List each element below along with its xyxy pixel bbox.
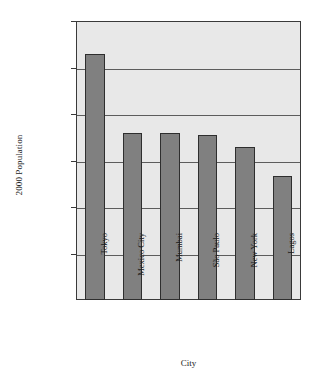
x-tick-label: Mexico City — [136, 233, 147, 303]
x-tick-label: Tokyo — [99, 233, 110, 303]
x-tick-label: Mumbai — [174, 233, 185, 303]
x-tick-label: São Paulo — [211, 233, 222, 303]
x-tick-label: New York — [249, 233, 260, 303]
x-axis-title: City — [76, 358, 301, 368]
bar-chart-figure: 2000 Population 5,000,00010,000,00015,00… — [0, 0, 322, 383]
y-axis-title: 2000 Population — [14, 95, 28, 235]
x-tick-label: Lagos — [286, 233, 297, 303]
